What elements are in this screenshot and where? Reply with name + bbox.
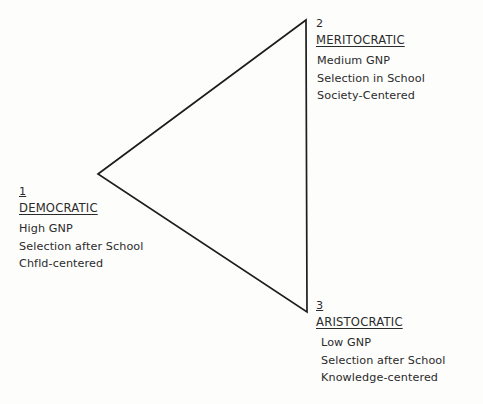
node-label-democratic: 1 DEMOCRATIC High GNP Selection after Sc… — [19, 184, 143, 273]
node-attribute: Selection after School — [19, 238, 143, 256]
node-attribute: Medium GNP — [317, 52, 425, 70]
node-attributes-meritocratic: Medium GNP Selection in School Society-C… — [316, 52, 425, 105]
node-attribute: Low GNP — [321, 334, 445, 352]
node-attributes-democratic: High GNP Selection after School Chfld-ce… — [19, 220, 143, 273]
node-attribute: Society-Centered — [317, 87, 425, 105]
node-attributes-aristocratic: Low GNP Selection after School Knowledge… — [316, 334, 445, 387]
node-attribute: High GNP — [19, 220, 143, 238]
node-title-aristocratic: ARISTOCRATIC — [316, 314, 445, 331]
node-attribute: Chfld-centered — [19, 255, 143, 273]
node-attribute: Knowledge-centered — [321, 369, 445, 387]
node-number-1: 1 — [19, 184, 143, 200]
node-label-meritocratic: 2 MERITOCRATIC Medium GNP Selection in S… — [316, 16, 425, 105]
node-title-meritocratic: MERITOCRATIC — [316, 32, 425, 49]
node-label-aristocratic: 3 ARISTOCRATIC Low GNP Selection after S… — [316, 298, 445, 387]
node-number-3: 3 — [316, 298, 445, 314]
node-attribute: Selection in School — [317, 70, 425, 88]
node-title-democratic: DEMOCRATIC — [19, 200, 143, 217]
node-attribute: Selection after School — [321, 352, 445, 370]
diagram-canvas: 1 DEMOCRATIC High GNP Selection after Sc… — [0, 0, 483, 404]
node-number-2: 2 — [316, 16, 425, 32]
